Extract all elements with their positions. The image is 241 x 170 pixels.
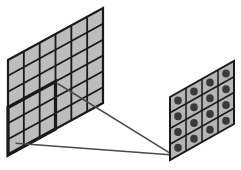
- output-activation-dot: [190, 87, 198, 95]
- output-activation-dot: [190, 103, 198, 111]
- output-activation-dot: [190, 119, 198, 127]
- output-activation-dot: [206, 110, 214, 118]
- output-activation-dot: [174, 128, 182, 136]
- convolution-diagram: [0, 0, 241, 170]
- output-activation-dot: [222, 101, 230, 109]
- output-activation-dot: [206, 78, 214, 86]
- output-activation-dot: [206, 94, 214, 102]
- output-activation-dot: [206, 126, 214, 134]
- output-activation-dot: [174, 112, 182, 120]
- output-activation-dot: [222, 117, 230, 125]
- output-activation-dot: [222, 69, 230, 77]
- connector-line: [16, 143, 174, 155]
- output-activation-dot: [174, 96, 182, 104]
- output-activation-dot: [190, 135, 198, 143]
- output-activation-dot: [174, 144, 182, 152]
- output-activation-dot: [222, 85, 230, 93]
